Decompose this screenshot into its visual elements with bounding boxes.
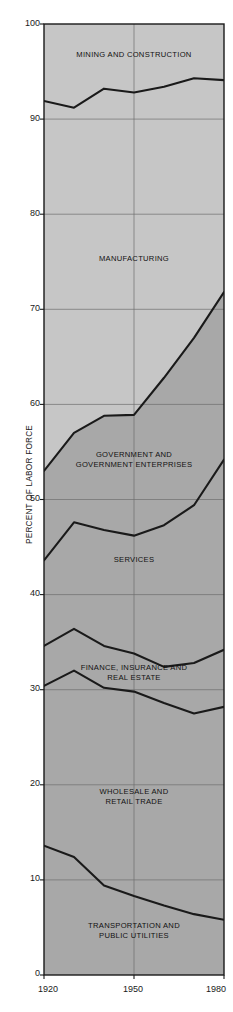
y-tick-label: 60 bbox=[10, 399, 40, 408]
y-tick-label: 0 bbox=[10, 969, 40, 978]
y-tick-label: 90 bbox=[10, 114, 40, 123]
y-tick-label: 20 bbox=[10, 779, 40, 788]
y-tick-label: 100 bbox=[10, 19, 40, 28]
y-tick-label: 10 bbox=[10, 874, 40, 883]
y-tick-label: 40 bbox=[10, 589, 40, 598]
y-tick-label: 30 bbox=[10, 684, 40, 693]
y-tick-label: 70 bbox=[10, 304, 40, 313]
labor-force-area-chart: PERCENT OF LABOR FORCE 100 90 80 70 60 5… bbox=[0, 0, 233, 1012]
x-tick-label: 1920 bbox=[28, 984, 68, 994]
x-tick-label: 1980 bbox=[196, 984, 233, 994]
y-tick-labels: 100 90 80 70 60 50 40 30 20 10 0 bbox=[4, 0, 40, 1012]
y-tick-label: 80 bbox=[10, 209, 40, 218]
x-tick-label: 1950 bbox=[113, 984, 153, 994]
y-tick-label: 50 bbox=[10, 494, 40, 503]
